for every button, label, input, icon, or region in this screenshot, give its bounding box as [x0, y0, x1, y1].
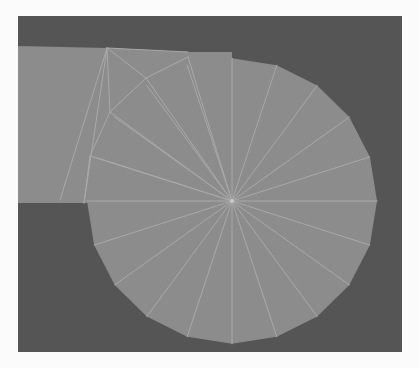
3d-viewport: [0, 0, 419, 368]
disc-center-vertex: [230, 199, 234, 203]
mesh-render: [0, 0, 419, 368]
